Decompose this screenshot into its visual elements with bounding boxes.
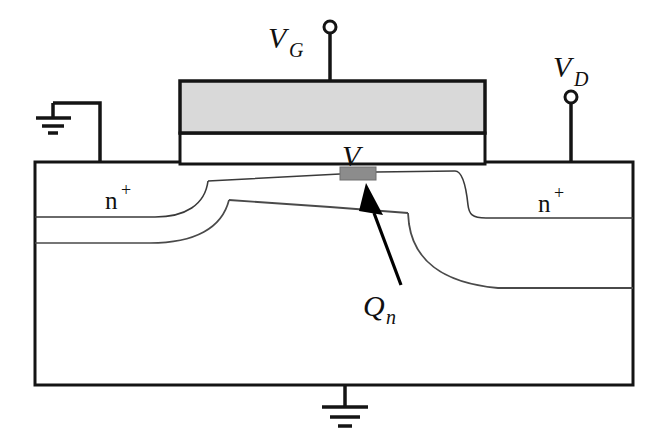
drain-voltage-subscript: D	[573, 68, 589, 90]
source-ground-lead-line	[53, 103, 100, 163]
inversion-charge-subscript: n	[386, 306, 396, 328]
drain-terminal-node-icon[interactable]	[565, 91, 577, 103]
gate-oxide-region	[180, 133, 485, 164]
source-region-base: n	[105, 187, 118, 214]
body-ground-icon	[322, 385, 368, 426]
polysilicon-gate-region	[180, 81, 485, 133]
drain-voltage-label: V D	[553, 50, 589, 90]
gate-voltage-subscript: G	[289, 39, 304, 61]
drain-region-superscript: +	[554, 183, 564, 203]
drain-voltage-base: V	[553, 50, 575, 83]
source-region-superscript: +	[121, 180, 131, 200]
mosfet-cross-section-figure: V G V D V Q n n + n +	[0, 0, 667, 443]
inversion-charge-base: Q	[363, 289, 385, 322]
gate-voltage-label: V G	[268, 21, 304, 61]
gate-terminal-node-icon[interactable]	[324, 21, 336, 33]
device-diagram-canvas: V G V D V Q n n + n +	[0, 0, 667, 443]
source-ground-icon	[36, 103, 71, 133]
drain-region-base: n	[538, 190, 551, 217]
gate-voltage-base: V	[268, 21, 290, 54]
